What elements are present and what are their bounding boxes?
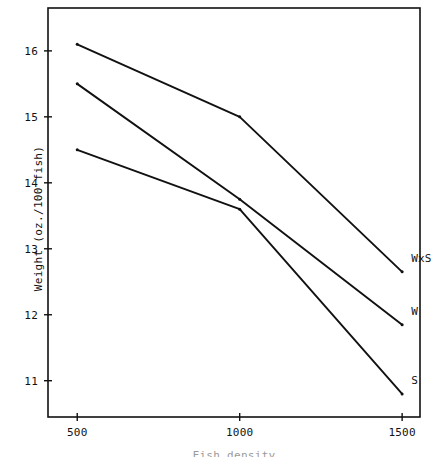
data-point xyxy=(238,115,241,118)
data-point xyxy=(76,43,79,46)
data-point xyxy=(401,270,404,273)
data-point xyxy=(238,198,241,201)
data-point xyxy=(401,323,404,326)
y-tick-label: 12 xyxy=(8,308,38,321)
plot-background xyxy=(48,8,420,417)
x-tick-label: 1000 xyxy=(226,426,253,439)
y-tick-label: 13 xyxy=(8,242,38,255)
y-tick-label: 11 xyxy=(8,374,38,387)
x-tick-label: 1500 xyxy=(388,426,415,439)
data-point xyxy=(238,208,241,211)
series-label-wxs: WxS xyxy=(411,251,431,264)
y-tick-label: 14 xyxy=(8,176,38,189)
x-axis-title: Fish density xyxy=(134,449,334,457)
data-point xyxy=(401,392,404,395)
data-point xyxy=(76,82,79,85)
series-label-w: W xyxy=(411,304,418,317)
y-axis-title: Weight (oz./100 fish) xyxy=(32,119,45,319)
y-tick-label: 16 xyxy=(8,44,38,57)
series-label-s: S xyxy=(411,373,418,386)
x-tick-label: 500 xyxy=(67,426,87,439)
y-tick-label: 15 xyxy=(8,110,38,123)
data-point xyxy=(76,148,79,151)
